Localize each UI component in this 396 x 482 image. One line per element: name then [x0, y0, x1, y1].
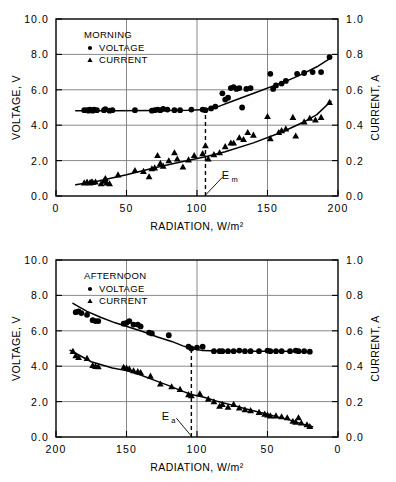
data-point-voltage [248, 348, 254, 354]
y-axis-right-tick-label: 0.4 [346, 360, 364, 372]
annotation-label-subscript: a [171, 416, 176, 425]
figure-root: 0.02.04.06.08.010.00.00.20.40.60.81.0050… [0, 0, 396, 482]
data-point-current [154, 152, 161, 158]
y-axis-left-title: VOLTAGE, V [10, 75, 22, 140]
data-point-voltage [188, 346, 194, 352]
afternoon-plot-group: 0.02.04.06.08.010.00.00.20.40.60.81.0200… [10, 254, 381, 473]
data-point-voltage [239, 105, 245, 111]
data-point-voltage [219, 348, 225, 354]
y-axis-left-tick-label: 10.0 [24, 254, 49, 266]
data-point-voltage [248, 85, 254, 91]
x-axis-title: RADIATION, W/m² [150, 461, 243, 473]
data-point-voltage [94, 107, 100, 113]
y-axis-right-tick-label: 0.4 [346, 119, 364, 131]
data-point-voltage [267, 348, 273, 354]
data-point-voltage [211, 348, 217, 354]
data-point-voltage [172, 107, 178, 113]
data-point-current [289, 114, 296, 120]
afternoon-chart-svg: 0.02.04.06.08.010.00.00.20.40.60.81.0200… [0, 241, 396, 482]
data-point-voltage [194, 345, 200, 351]
x-axis-tick-label: 50 [120, 202, 134, 214]
x-axis-tick-label: 0 [53, 202, 60, 214]
data-point-voltage [267, 71, 273, 77]
y-axis-left-tick-label: 6.0 [31, 325, 49, 337]
data-point-voltage [279, 348, 285, 354]
data-point-voltage [301, 348, 307, 354]
data-point-current [174, 155, 181, 161]
y-axis-left-tick-label: 0.0 [31, 431, 49, 443]
data-point-voltage [273, 82, 279, 88]
annotation-label-subscript: m [231, 175, 237, 184]
y-axis-left-tick-label: 2.0 [31, 155, 49, 167]
data-point-current [244, 129, 251, 135]
data-point-voltage [310, 69, 316, 75]
y-axis-right-tick-label: 0.0 [346, 431, 364, 443]
data-point-voltage [236, 85, 242, 91]
data-point-voltage [294, 71, 300, 77]
legend-marker-current [87, 298, 92, 303]
y-axis-right-title: CURRENT, A [369, 315, 381, 381]
data-point-current [102, 175, 109, 181]
y-axis-right-tick-label: 0.6 [346, 325, 364, 337]
annotation-label: E [162, 410, 169, 422]
y-axis-right-tick-label: 0.2 [346, 396, 364, 408]
legend-label-voltage: VOLTAGE [99, 42, 145, 53]
y-axis-left-title: VOLTAGE, V [10, 316, 22, 381]
legend-title: AFTERNOON [84, 270, 146, 281]
data-point-current [180, 163, 187, 169]
data-point-voltage [318, 69, 324, 75]
y-axis-left-tick-label: 10.0 [24, 13, 49, 25]
data-point-voltage [231, 348, 237, 354]
legend-marker-voltage [88, 287, 92, 291]
y-axis-right-tick-label: 1.0 [346, 254, 364, 266]
data-point-voltage [256, 348, 262, 354]
data-point-current [115, 171, 122, 177]
annotation-label: E [222, 169, 229, 181]
y-axis-right-tick-label: 1.0 [346, 13, 364, 25]
data-point-current [278, 413, 285, 419]
data-point-voltage [307, 349, 313, 355]
data-point-voltage [236, 348, 242, 354]
data-point-voltage [149, 331, 155, 337]
data-point-voltage [200, 344, 206, 350]
y-axis-left-tick-label: 0.0 [31, 190, 49, 202]
data-point-voltage [212, 104, 218, 110]
chart-panel-morning: 0.02.04.06.08.010.00.00.20.40.60.81.0050… [0, 0, 396, 241]
data-point-current [326, 99, 333, 105]
x-axis-title: RADIATION, W/m² [150, 220, 243, 232]
data-point-voltage [283, 78, 289, 84]
y-axis-left-tick-label: 2.0 [31, 396, 49, 408]
data-point-voltage [219, 90, 225, 96]
x-axis-tick-label: 150 [116, 443, 137, 455]
y-axis-right-tick-label: 0.2 [346, 155, 364, 167]
legend-label-voltage: VOLTAGE [99, 283, 145, 294]
data-point-voltage [78, 310, 84, 316]
data-point-current [132, 167, 139, 173]
legend-label-current: CURRENT [99, 54, 148, 65]
data-point-voltage [203, 107, 209, 113]
y-axis-right-title: CURRENT, A [369, 74, 381, 140]
legend-marker-voltage [88, 46, 92, 50]
data-point-voltage [301, 70, 307, 76]
x-axis-tick-label: 200 [46, 443, 67, 455]
data-point-voltage [84, 312, 90, 318]
y-axis-left-tick-label: 4.0 [31, 119, 49, 131]
data-point-voltage [166, 332, 172, 338]
data-point-current [147, 373, 154, 379]
data-point-voltage [225, 348, 231, 354]
data-point-voltage [188, 107, 194, 113]
data-point-current [202, 142, 209, 148]
data-point-voltage [287, 348, 293, 354]
morning-chart-svg: 0.02.04.06.08.010.00.00.20.40.60.81.0050… [0, 0, 396, 241]
data-point-voltage [225, 95, 231, 101]
data-point-voltage [273, 348, 279, 354]
data-point-voltage [138, 323, 144, 329]
data-point-voltage [177, 107, 183, 113]
data-point-current [292, 132, 299, 138]
y-axis-right-tick-label: 0.8 [346, 48, 364, 60]
x-axis-tick-label: 150 [257, 202, 278, 214]
legend: AFTERNOONVOLTAGECURRENT [84, 270, 148, 306]
legend-label-current: CURRENT [99, 295, 148, 306]
data-point-voltage [132, 107, 138, 113]
data-point-voltage [296, 348, 302, 354]
